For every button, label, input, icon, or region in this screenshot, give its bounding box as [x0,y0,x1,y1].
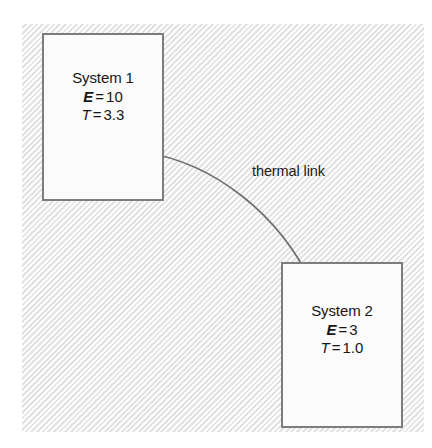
temperature-value: 3.3 [104,106,125,123]
system-1-energy: E=10 [44,88,162,106]
system-1-title: System 1 [44,69,162,87]
temperature-value: 1.0 [343,339,364,356]
thermal-link-diagram: System 1 E=10 T=3.3 System 2 E=3 T=1.0 t… [0,0,432,448]
energy-equals-sign: = [93,88,106,105]
temperature-symbol: T [82,106,91,123]
energy-symbol: E [326,321,336,338]
system-1-labels: System 1 E=10 T=3.3 [44,69,162,124]
energy-symbol: E [83,88,93,105]
system-1-temperature: T=3.3 [44,106,162,124]
thermal-link-label: thermal link [252,163,325,179]
system-2-labels: System 2 E=3 T=1.0 [283,302,401,357]
energy-value: 3 [349,321,357,338]
system-2-title: System 2 [283,302,401,320]
temperature-symbol: T [321,339,330,356]
system-2-energy: E=3 [283,321,401,339]
energy-equals-sign: = [336,321,349,338]
energy-value: 10 [106,88,123,105]
temperature-equals-sign: = [330,339,343,356]
system-2-temperature: T=1.0 [283,339,401,357]
temperature-equals-sign: = [91,106,104,123]
system-2-box: System 2 E=3 T=1.0 [281,262,403,428]
system-1-box: System 1 E=10 T=3.3 [42,33,164,201]
